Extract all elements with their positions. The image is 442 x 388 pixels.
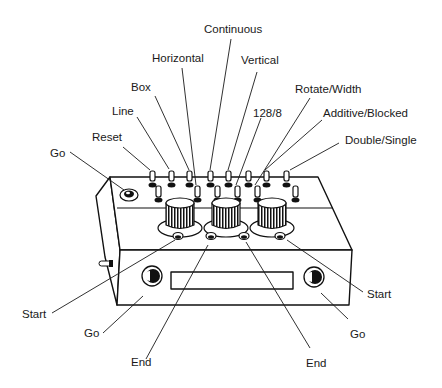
control-box-diagram: Continuous Horizontal Vertical Box Rotat… [0, 0, 442, 388]
label-horizontal: Horizontal [152, 52, 204, 64]
toggle-double-single[interactable] [283, 171, 291, 188]
toggle-128-8[interactable] [245, 171, 253, 188]
side-toggle-switch[interactable] [99, 260, 113, 267]
label-start-right: Start [367, 288, 392, 300]
toggle-horizontal[interactable] [194, 186, 202, 203]
label-end-left: End [131, 356, 151, 368]
toggle-additive-blocked[interactable] [263, 171, 271, 188]
label-128-8: 128/8 [253, 107, 282, 119]
label-go-left: Go [84, 327, 99, 339]
label-vertical: Vertical [241, 54, 279, 66]
label-double-single: Double/Single [345, 134, 417, 146]
start-left-button[interactable] [173, 233, 183, 240]
label-box: Box [131, 81, 151, 93]
go-top-button[interactable] [120, 189, 138, 201]
label-line: Line [112, 105, 134, 117]
end-right-button[interactable] [239, 233, 249, 240]
label-start-left: Start [22, 308, 47, 320]
toggle-box[interactable] [186, 171, 194, 188]
label-reset: Reset [92, 131, 123, 143]
start-right-button[interactable] [275, 233, 285, 240]
label-end-right: End [306, 357, 326, 369]
label-rotate-width: Rotate/Width [295, 83, 361, 95]
rotary-knobs [158, 198, 294, 237]
go-left-jack[interactable] [142, 266, 162, 286]
display-window [171, 272, 293, 289]
label-go-top: Go [50, 147, 65, 159]
toggle-reset[interactable] [149, 171, 157, 188]
label-go-right: Go [350, 328, 365, 340]
label-continuous: Continuous [204, 23, 262, 35]
toggle-front-6[interactable] [292, 186, 300, 203]
toggle-vertical[interactable] [225, 171, 233, 188]
toggle-continuous[interactable] [207, 171, 215, 188]
end-left-button[interactable] [206, 233, 216, 240]
label-additive-blocked: Additive/Blocked [323, 107, 408, 119]
go-right-jack[interactable] [304, 267, 324, 287]
toggle-line[interactable] [168, 171, 176, 188]
toggle-front-1[interactable] [155, 186, 163, 203]
